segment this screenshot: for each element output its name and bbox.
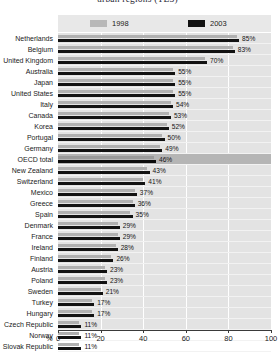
- bar-row: 50%: [58, 132, 271, 143]
- category-label: New Zealand: [0, 165, 56, 176]
- category-label: Hungary: [0, 308, 56, 319]
- category-label: Turkey: [0, 297, 56, 308]
- bar-1998: [58, 112, 169, 115]
- bar-1998: [58, 321, 79, 324]
- bar-value-label: 50%: [165, 133, 181, 142]
- bar-row: 28%: [58, 242, 271, 253]
- category-label: Italy: [0, 99, 56, 110]
- x-axis-line: [58, 330, 271, 331]
- bar-row: 54%: [58, 99, 271, 110]
- bar-1998: [58, 189, 135, 192]
- bar-2003: [58, 270, 107, 273]
- bar-1998: [58, 68, 173, 71]
- bar-2003: [58, 39, 239, 42]
- bar-1998: [58, 178, 143, 181]
- bar-2003: [58, 215, 133, 218]
- category-label: Mexico: [0, 187, 56, 198]
- bar-2003: [58, 259, 113, 262]
- bar-row: 29%: [58, 220, 271, 231]
- legend-label-1998: 1998: [112, 19, 129, 28]
- bar-row: 26%: [58, 253, 271, 264]
- bar-1998: [58, 145, 160, 148]
- category-label: Korea: [0, 121, 56, 132]
- tick-label-20: 20: [96, 334, 104, 343]
- bar-2003: [58, 237, 120, 240]
- bar-row: 85%: [58, 33, 271, 44]
- category-label: OECD total: [0, 154, 56, 165]
- bar-row: 55%: [58, 77, 271, 88]
- category-axis-labels: NetherlandsBelgiumUnited KingdomAustrali…: [0, 33, 56, 330]
- bar-row: 52%: [58, 121, 271, 132]
- bar-1998: [58, 255, 111, 258]
- tick-80: [228, 330, 229, 333]
- bar-2003: [58, 303, 94, 306]
- bar-2003: [58, 72, 175, 75]
- bar-1998: [58, 35, 237, 38]
- bar-2003: [58, 248, 118, 251]
- legend-item-1998: 1998: [90, 19, 129, 28]
- legend-swatch-2003: [188, 20, 205, 27]
- bar-2003: [58, 160, 156, 163]
- bar-row: 21%: [58, 286, 271, 297]
- bar-2003: [58, 204, 135, 207]
- x-axis: 020406080100: [58, 330, 271, 351]
- chart-legend: 1998 2003: [58, 15, 271, 32]
- tick-label-80: 80: [224, 334, 232, 343]
- bar-value-label: 55%: [175, 67, 191, 76]
- bar-value-label: 54%: [173, 100, 189, 109]
- tick-label-100: 100: [265, 334, 278, 343]
- bar-1998: [58, 134, 162, 137]
- category-label: Greece: [0, 198, 56, 209]
- category-label: Poland: [0, 275, 56, 286]
- category-label: Belgium: [0, 44, 56, 55]
- bar-1998: [58, 222, 118, 225]
- legend-label-2003: 2003: [210, 19, 227, 28]
- tick-100: [271, 330, 272, 333]
- tick-20: [101, 330, 102, 333]
- bar-value-label: 23%: [107, 265, 123, 274]
- bar-1998: [58, 79, 173, 82]
- category-label: Austria: [0, 264, 56, 275]
- bar-row: 49%: [58, 143, 271, 154]
- bar-row: 53%: [58, 110, 271, 121]
- bar-2003: [58, 105, 173, 108]
- bar-2003: [58, 61, 207, 64]
- bar-value-label: 49%: [162, 144, 178, 153]
- category-label: Finland: [0, 253, 56, 264]
- bar-row: 17%: [58, 308, 271, 319]
- bar-row: 41%: [58, 176, 271, 187]
- bar-row: 37%: [58, 187, 271, 198]
- bar-row: 29%: [58, 231, 271, 242]
- bar-2003: [58, 171, 150, 174]
- tick-label-60: 60: [182, 334, 190, 343]
- bar-1998: [58, 299, 92, 302]
- category-label: Canada: [0, 110, 56, 121]
- bar-1998: [58, 233, 118, 236]
- bar-1998: [58, 90, 173, 93]
- category-label: Netherlands: [0, 33, 56, 44]
- axis-unit-label: %: [46, 334, 53, 343]
- bar-row: 83%: [58, 44, 271, 55]
- bar-2003: [58, 116, 171, 119]
- bar-row: 55%: [58, 88, 271, 99]
- tick-label-0: 0: [56, 334, 60, 343]
- bar-row: 36%: [58, 198, 271, 209]
- bar-1998: [58, 101, 171, 104]
- bar-value-label: 21%: [103, 287, 119, 296]
- gridline-100: [271, 33, 272, 330]
- bar-value-label: 85%: [239, 34, 255, 43]
- tick-60: [186, 330, 187, 333]
- bar-row: 55%: [58, 66, 271, 77]
- bar-1998: [58, 156, 154, 159]
- bar-value-label: 55%: [175, 78, 191, 87]
- tick-label-40: 40: [139, 334, 147, 343]
- category-label: Germany: [0, 143, 56, 154]
- category-label: United Kingdom: [0, 55, 56, 66]
- bar-2003: [58, 149, 162, 152]
- bar-value-label: 26%: [113, 254, 129, 263]
- bar-2003: [58, 50, 235, 53]
- bar-2003: [58, 314, 94, 317]
- bar-value-label: 23%: [107, 276, 123, 285]
- bar-2003: [58, 281, 107, 284]
